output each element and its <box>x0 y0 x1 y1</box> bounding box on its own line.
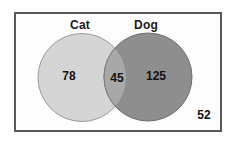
venn-diagram-figure: Cat Dog 78 45 125 52 <box>0 0 234 142</box>
count-dog-only: 125 <box>139 69 173 83</box>
count-cat-only: 78 <box>56 69 82 83</box>
count-intersection: 45 <box>105 71 129 85</box>
set-label-cat: Cat <box>58 18 102 32</box>
set-label-dog: Dog <box>124 18 168 32</box>
count-outside-sets: 52 <box>192 108 216 122</box>
